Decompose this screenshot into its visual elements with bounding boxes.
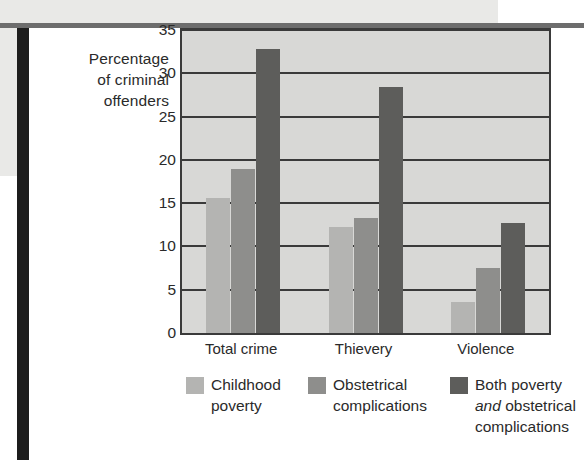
legend-label-line-2-italic: and	[475, 397, 501, 414]
bar-violence-series-2	[501, 223, 525, 333]
gridline-25	[182, 116, 549, 118]
legend-swatch-both-poverty-and-obstetrical-complications	[450, 377, 468, 394]
legend-item-childhood-poverty[interactable]: Childhood poverty	[186, 374, 308, 437]
legend-item-both-poverty-and-obstetrical-complications[interactable]: Both poverty and obstetrical complicatio…	[450, 374, 578, 437]
y-tick-label-25: 25	[138, 108, 176, 126]
legend-label-childhood-poverty: Childhood poverty	[211, 374, 281, 416]
page-left-gray-block	[0, 28, 17, 176]
legend-label-line-2-rest: obstetrical	[501, 397, 576, 414]
chart-plot-area	[180, 28, 551, 335]
y-axis-tick-labels: 05101520253035	[134, 28, 176, 335]
y-tick-label-10: 10	[138, 237, 176, 255]
y-tick-label-15: 15	[138, 194, 176, 212]
y-tick-label-35: 35	[138, 21, 176, 39]
gridline-35	[182, 29, 549, 31]
chart-plot-inner	[182, 30, 549, 333]
page-top-band	[0, 0, 498, 23]
x-tick-label-total-crime: Total crime	[180, 340, 302, 357]
bar-violence-series-0	[451, 302, 475, 333]
legend-label-both-poverty-and-obstetrical-complications: Both poverty and obstetrical complicatio…	[475, 374, 576, 437]
legend-item-obstetrical-complications[interactable]: Obstetrical complications	[308, 374, 450, 437]
bar-total-crime-series-2	[256, 49, 280, 333]
chart-legend: Childhood poverty Obstetrical complicati…	[186, 374, 578, 437]
bar-total-crime-series-0	[206, 198, 230, 333]
legend-label-line-3: complications	[475, 418, 569, 435]
legend-label-line-2: poverty	[211, 397, 262, 414]
x-axis-category-labels: Total crimeThieveryViolence	[180, 340, 551, 364]
y-tick-label-30: 30	[138, 64, 176, 82]
x-tick-label-thievery: Thievery	[302, 340, 424, 357]
legend-label-line-1: Obstetrical	[333, 376, 407, 393]
gridline-30	[182, 72, 549, 74]
legend-label-line-2: complications	[333, 397, 427, 414]
bar-thievery-series-0	[329, 227, 353, 333]
y-tick-label-0: 0	[138, 324, 176, 342]
y-tick-label-5: 5	[138, 281, 176, 299]
legend-label-line-1: Childhood	[211, 376, 281, 393]
legend-swatch-obstetrical-complications	[308, 377, 326, 394]
x-tick-label-violence: Violence	[425, 340, 547, 357]
legend-label-line-1: Both poverty	[475, 376, 562, 393]
gridline-20	[182, 159, 549, 161]
y-tick-label-20: 20	[138, 151, 176, 169]
bar-violence-series-1	[476, 268, 500, 333]
page-left-black-bar	[17, 28, 29, 460]
figure-page: Percentage of criminal offenders 0510152…	[0, 0, 584, 476]
bar-thievery-series-1	[354, 218, 378, 333]
bar-total-crime-series-1	[231, 169, 255, 333]
bar-thievery-series-2	[379, 87, 403, 333]
legend-label-obstetrical-complications: Obstetrical complications	[333, 374, 427, 416]
legend-swatch-childhood-poverty	[186, 377, 204, 394]
